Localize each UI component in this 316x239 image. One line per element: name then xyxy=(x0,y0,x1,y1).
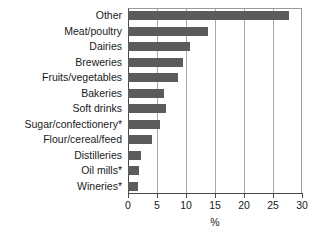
x-tick-mark xyxy=(157,194,158,198)
bar xyxy=(128,166,139,175)
table-row xyxy=(128,132,302,148)
x-axis-label: % xyxy=(128,216,302,228)
table-row xyxy=(128,148,302,164)
category-label: Fruits/vegetables xyxy=(0,70,125,86)
x-tick-mark xyxy=(128,194,129,198)
x-tick-label: 15 xyxy=(209,199,221,211)
bar xyxy=(128,89,164,98)
bar-series xyxy=(128,8,302,194)
category-label: Breweries xyxy=(0,55,125,71)
table-row xyxy=(128,101,302,117)
x-tick-label: 25 xyxy=(267,199,279,211)
x-tick-mark xyxy=(215,194,216,198)
category-label: Bakeries xyxy=(0,86,125,102)
category-label: Soft drinks xyxy=(0,101,125,117)
bar xyxy=(128,73,178,82)
chart-figure: Other Meat/poultry Dairies Breweries Fru… xyxy=(0,0,316,239)
bar xyxy=(128,42,190,51)
x-tick-label: 5 xyxy=(154,199,160,211)
category-label: Meat/poultry xyxy=(0,24,125,40)
category-label: Flour/cereal/feed xyxy=(0,132,125,148)
category-label: Dairies xyxy=(0,39,125,55)
bar xyxy=(128,182,138,191)
table-row xyxy=(128,179,302,195)
category-label: Sugar/confectionery* xyxy=(0,117,125,133)
category-label: Oil mills* xyxy=(0,163,125,179)
x-tick-label: 20 xyxy=(238,199,250,211)
category-label: Wineries* xyxy=(0,179,125,195)
category-axis-labels: Other Meat/poultry Dairies Breweries Fru… xyxy=(0,8,125,194)
bar xyxy=(128,104,166,113)
x-tick-label: 30 xyxy=(296,199,308,211)
table-row xyxy=(128,24,302,40)
bar xyxy=(128,151,141,160)
x-tick-label: 10 xyxy=(180,199,192,211)
x-tick-mark xyxy=(273,194,274,198)
category-label: Distilleries xyxy=(0,148,125,164)
table-row xyxy=(128,70,302,86)
x-tick-label: 0 xyxy=(125,199,131,211)
x-tick-mark xyxy=(244,194,245,198)
bar xyxy=(128,11,289,20)
table-row xyxy=(128,86,302,102)
bar xyxy=(128,135,152,144)
table-row xyxy=(128,8,302,24)
table-row xyxy=(128,163,302,179)
table-row xyxy=(128,55,302,71)
x-tick-mark xyxy=(302,194,303,198)
table-row xyxy=(128,117,302,133)
category-label: Other xyxy=(0,8,125,24)
x-axis-ticks: 051015202530 xyxy=(128,194,302,200)
bar xyxy=(128,27,208,36)
bar xyxy=(128,58,183,67)
bar xyxy=(128,120,160,129)
x-tick-mark xyxy=(186,194,187,198)
table-row xyxy=(128,39,302,55)
